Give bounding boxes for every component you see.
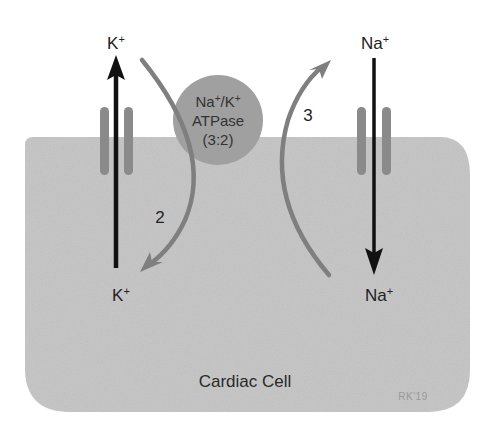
cell-body [25, 137, 470, 412]
cardiac-cell-diagram [0, 0, 497, 430]
pump-label-line1: Na+/K+ [192, 92, 244, 111]
potassium-intracellular-label: K+ [112, 286, 130, 304]
potassium-extracellular-label: K+ [107, 34, 125, 52]
pump-label-line3: (3:2) [192, 130, 244, 149]
cell-label: Cardiac Cell [199, 372, 292, 392]
pump-label-line2: ATPase [192, 111, 244, 130]
author-signature: RK'19 [398, 391, 427, 402]
potassium-stoichiometry: 2 [155, 208, 164, 228]
sodium-stoichiometry: 3 [303, 106, 312, 126]
pump-label: Na+/K+ ATPase (3:2) [192, 92, 244, 149]
sodium-intracellular-label: Na+ [365, 286, 393, 304]
sodium-extracellular-label: Na+ [361, 34, 389, 52]
